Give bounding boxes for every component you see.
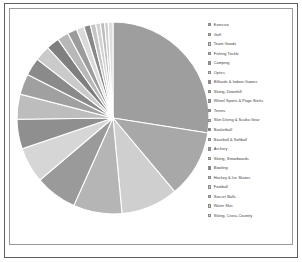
legend-item-label: Golf bbox=[214, 30, 221, 40]
legend-item: Camping bbox=[208, 58, 300, 68]
legend-swatch-icon bbox=[208, 99, 211, 102]
chart-legend: ExerciseGolfTeam GoodsFishing TackleCamp… bbox=[208, 20, 300, 240]
pie-chart-canvas bbox=[13, 18, 213, 218]
pie-slices-group bbox=[17, 22, 209, 214]
legend-swatch-icon bbox=[208, 204, 211, 207]
legend-swatch-icon bbox=[208, 176, 211, 179]
legend-item: Basketball bbox=[208, 125, 300, 135]
legend-swatch-icon bbox=[208, 157, 211, 160]
legend-item: Golf bbox=[208, 30, 300, 40]
legend-swatch-icon bbox=[208, 214, 211, 217]
legend-item-label: Bowling bbox=[214, 163, 228, 173]
legend-item-label: Exercise bbox=[214, 20, 229, 30]
legend-item-label: Water Skis bbox=[214, 201, 233, 211]
legend-swatch-icon bbox=[208, 119, 211, 122]
legend-item-label: Billiards & Indoor Games bbox=[214, 77, 258, 87]
legend-swatch-icon bbox=[208, 42, 211, 45]
legend-item-label: Skiing, Snowboards bbox=[214, 154, 249, 164]
legend-item: Hockey & Ice Skates bbox=[208, 173, 300, 183]
legend-item-label: Hockey & Ice Skates bbox=[214, 173, 250, 183]
legend-item: Billiards & Indoor Games bbox=[208, 77, 300, 87]
legend-item: Water Skis bbox=[208, 201, 300, 211]
legend-item: Team Goods bbox=[208, 39, 300, 49]
legend-swatch-icon bbox=[208, 147, 211, 150]
legend-item-label: Tennis bbox=[214, 106, 225, 116]
legend-item-label: Archery bbox=[214, 144, 228, 154]
legend-swatch-icon bbox=[208, 166, 211, 169]
legend-item: Football bbox=[208, 182, 300, 192]
pie-slice bbox=[113, 22, 209, 133]
legend-item-label: Camping bbox=[214, 58, 230, 68]
legend-swatch-icon bbox=[208, 61, 211, 64]
legend-item: Skin Diving & Scuba Gear bbox=[208, 115, 300, 125]
legend-item-label: Soccer Balls bbox=[214, 192, 236, 202]
legend-item: Fishing Tackle bbox=[208, 49, 300, 59]
legend-swatch-icon bbox=[208, 185, 211, 188]
legend-item: Skiing, Downhill bbox=[208, 87, 300, 97]
legend-swatch-icon bbox=[208, 33, 211, 36]
legend-item: Skiing, Cross-Country bbox=[208, 211, 300, 221]
legend-item-label: Basketball bbox=[214, 125, 232, 135]
legend-item-label: Skiing, Downhill bbox=[214, 87, 242, 97]
legend-swatch-icon bbox=[208, 52, 211, 55]
legend-item-label: Optics bbox=[214, 68, 225, 78]
legend-swatch-icon bbox=[208, 138, 211, 141]
legend-item: Skiing, Snowboards bbox=[208, 154, 300, 164]
legend-item-label: Fishing Tackle bbox=[214, 49, 239, 59]
legend-item-label: Wheel Sports & Pogo Sticks bbox=[214, 96, 263, 106]
legend-item: Tennis bbox=[208, 106, 300, 116]
legend-item-label: Team Goods bbox=[214, 39, 236, 49]
legend-item: Exercise bbox=[208, 20, 300, 30]
legend-swatch-icon bbox=[208, 23, 211, 26]
pie-chart-figure: ExerciseGolfTeam GoodsFishing TackleCamp… bbox=[0, 0, 302, 262]
legend-swatch-icon bbox=[208, 80, 211, 83]
legend-item: Optics bbox=[208, 68, 300, 78]
legend-swatch-icon bbox=[208, 109, 211, 112]
pie-svg bbox=[13, 18, 213, 218]
legend-item: Bowling bbox=[208, 163, 300, 173]
legend-item: Baseball & Softball bbox=[208, 135, 300, 145]
legend-item-label: Skin Diving & Scuba Gear bbox=[214, 115, 260, 125]
legend-swatch-icon bbox=[208, 195, 211, 198]
legend-item-label: Football bbox=[214, 182, 228, 192]
legend-swatch-icon bbox=[208, 90, 211, 93]
legend-swatch-icon bbox=[208, 71, 211, 74]
legend-item-label: Skiing, Cross-Country bbox=[214, 211, 252, 221]
legend-swatch-icon bbox=[208, 128, 211, 131]
legend-item: Soccer Balls bbox=[208, 192, 300, 202]
legend-item-label: Baseball & Softball bbox=[214, 135, 247, 145]
legend-item: Wheel Sports & Pogo Sticks bbox=[208, 96, 300, 106]
legend-item: Archery bbox=[208, 144, 300, 154]
